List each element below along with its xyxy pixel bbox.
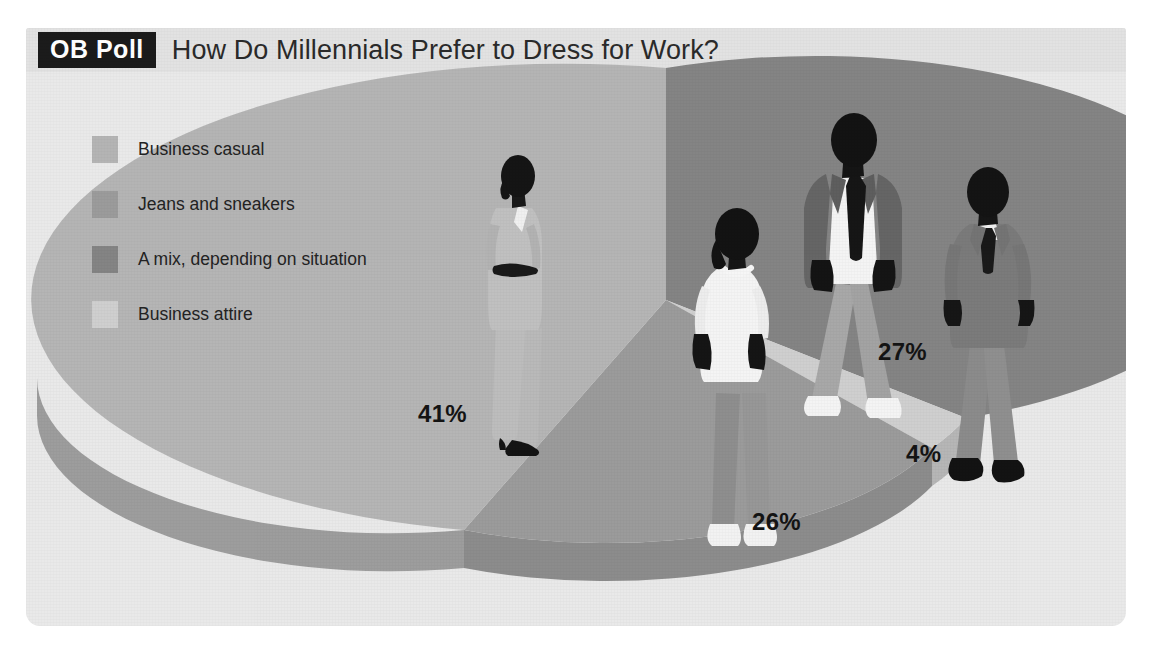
legend-swatch-business-casual — [92, 136, 118, 163]
legend-item-mix: A mix, depending on situation — [92, 232, 422, 287]
legend-swatch-mix — [92, 246, 118, 273]
legend-item-business-casual: Business casual — [92, 122, 422, 177]
legend-label-mix: A mix, depending on situation — [138, 249, 367, 270]
slice-label-business-casual: 41% — [418, 400, 467, 428]
legend-swatch-jeans-sneakers — [92, 191, 118, 218]
legend-item-jeans-sneakers: Jeans and sneakers — [92, 177, 422, 232]
legend-item-business-attire: Business attire — [92, 287, 422, 342]
legend-label-jeans-sneakers: Jeans and sneakers — [138, 194, 295, 215]
legend-label-business-attire: Business attire — [138, 304, 253, 325]
legend-label-business-casual: Business casual — [138, 139, 264, 160]
slice-label-jeans-sneakers: 26% — [752, 508, 801, 536]
poll-panel: OB Poll How Do Millennials Prefer to Dre… — [26, 28, 1126, 626]
infographic-root: OB Poll How Do Millennials Prefer to Dre… — [0, 0, 1152, 660]
slice-label-business-attire: 4% — [906, 440, 941, 468]
legend-swatch-business-attire — [92, 301, 118, 328]
chart-legend: Business casual Jeans and sneakers A mix… — [92, 122, 422, 342]
slice-label-mix: 27% — [878, 338, 927, 366]
